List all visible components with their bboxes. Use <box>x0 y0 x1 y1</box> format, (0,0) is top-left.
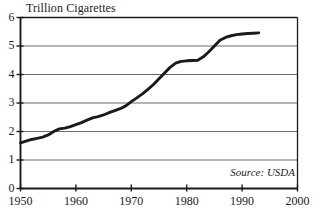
y-axis-tick-label: 3 <box>0 95 15 110</box>
gridline-group <box>21 46 298 160</box>
data-series-group <box>21 33 259 143</box>
y-axis-tick-label: 6 <box>0 10 15 25</box>
y-axis-tick-label: 2 <box>0 124 15 139</box>
chart-page: Trillion Cigarettes 0123456 195019601970… <box>0 0 319 220</box>
y-axis-tick-label: 1 <box>0 152 15 167</box>
x-axis-tick-label: 1980 <box>167 194 207 209</box>
x-axis-tick-label: 1950 <box>1 194 41 209</box>
x-axis-tick-label: 1960 <box>56 194 96 209</box>
x-axis-tick-label: 1970 <box>111 194 151 209</box>
line-chart-plot <box>0 0 319 220</box>
y-axis-tick-label: 4 <box>0 67 15 82</box>
x-axis-tick-label: 1990 <box>222 194 262 209</box>
y-axis-tick-label: 5 <box>0 38 15 53</box>
source-annotation: Source: USDA <box>230 166 295 178</box>
x-axis-tick-label: 2000 <box>278 194 318 209</box>
